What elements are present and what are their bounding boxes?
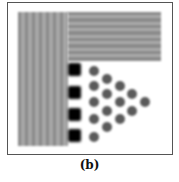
gray-dot — [89, 114, 99, 124]
figure-caption: (b) — [0, 158, 179, 172]
figure-frame — [7, 2, 173, 155]
black-square — [68, 129, 81, 142]
horizontal-stripe-pattern — [68, 12, 161, 61]
gray-dot — [127, 89, 137, 99]
gray-dot — [89, 66, 99, 76]
gray-dot — [102, 106, 112, 116]
vertical-stripe-pattern — [18, 12, 68, 146]
gray-dot — [89, 132, 99, 142]
black-square — [68, 108, 81, 121]
gray-dot — [102, 122, 112, 132]
gray-dot — [115, 97, 125, 107]
gray-dot — [102, 74, 112, 84]
gray-dot — [115, 114, 125, 124]
gray-dot — [115, 81, 125, 91]
gray-dot — [102, 89, 112, 99]
black-square — [68, 86, 81, 99]
gray-dot — [127, 106, 137, 116]
black-square — [68, 63, 81, 76]
gray-dot — [89, 97, 99, 107]
gray-dot — [140, 97, 150, 107]
gray-dot — [89, 81, 99, 91]
